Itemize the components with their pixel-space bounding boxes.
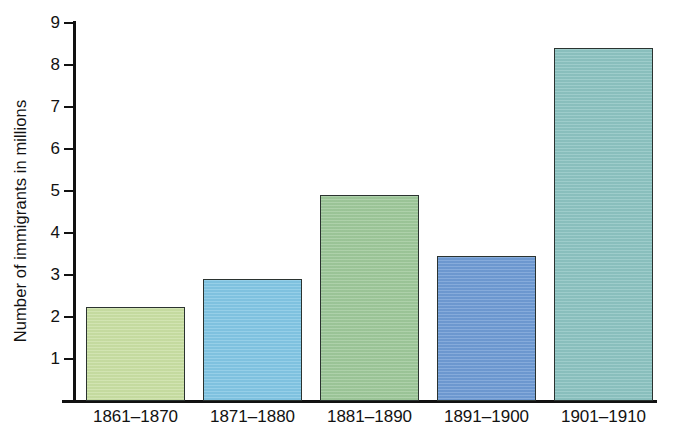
x-axis-tick-label: 1881–1890 bbox=[320, 408, 419, 427]
y-axis-line bbox=[73, 21, 76, 402]
y-axis-tick bbox=[64, 22, 74, 24]
y-axis-tick-label: 5 bbox=[36, 182, 60, 199]
bar bbox=[554, 48, 653, 401]
y-axis-tick-label: 2 bbox=[36, 308, 60, 325]
y-axis-tick-label: 3 bbox=[36, 266, 60, 283]
bar-chart: Number of immigrants in millions 1234567… bbox=[0, 0, 673, 442]
bar bbox=[320, 195, 419, 401]
x-axis-tick-label: 1901–1910 bbox=[554, 408, 653, 427]
y-axis-tick bbox=[64, 106, 74, 108]
y-axis-tick-label: 8 bbox=[36, 56, 60, 73]
y-axis-tick bbox=[64, 232, 74, 234]
y-axis-tick bbox=[64, 190, 74, 192]
bar bbox=[203, 279, 302, 401]
y-axis-tick bbox=[64, 64, 74, 66]
y-axis-tick-label: 6 bbox=[36, 140, 60, 157]
bar bbox=[86, 307, 185, 402]
y-axis-tick bbox=[64, 358, 74, 360]
y-axis-tick bbox=[64, 316, 74, 318]
y-axis-tick-label: 7 bbox=[36, 98, 60, 115]
y-axis-tick bbox=[64, 274, 74, 276]
bar bbox=[437, 256, 536, 401]
plot-area: 123456789 1861–18701871–18801881–1890189… bbox=[0, 0, 673, 442]
y-axis-tick-label: 9 bbox=[36, 14, 60, 31]
y-axis-tick-label: 4 bbox=[36, 224, 60, 241]
y-axis-tick bbox=[64, 148, 74, 150]
y-axis-tick-label: 1 bbox=[36, 350, 60, 367]
x-axis-tick-label: 1871–1880 bbox=[203, 408, 302, 427]
x-axis-tick-label: 1891–1900 bbox=[437, 408, 536, 427]
x-axis-tick-label: 1861–1870 bbox=[86, 408, 185, 427]
